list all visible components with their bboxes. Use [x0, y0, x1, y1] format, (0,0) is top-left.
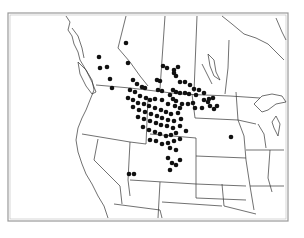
- occurrence-dot: [136, 101, 141, 106]
- occurrence-dot: [124, 41, 129, 46]
- occurrence-dot: [178, 137, 183, 142]
- occurrence-dot: [170, 161, 175, 166]
- occurrence-dot: [165, 66, 170, 71]
- occurrence-dot: [178, 91, 183, 96]
- occurrence-dot: [166, 156, 171, 161]
- boundaries: [66, 16, 286, 218]
- occurrence-dot: [149, 112, 154, 117]
- occurrence-dot: [98, 66, 103, 71]
- occurrence-dot: [153, 97, 158, 102]
- occurrence-dot: [142, 102, 147, 107]
- occurrence-dot: [191, 101, 196, 106]
- occurrence-dot: [171, 126, 176, 131]
- occurrence-dot: [143, 110, 148, 115]
- occurrence-dot: [135, 82, 140, 87]
- occurrence-dot: [127, 172, 132, 177]
- occurrence-dot: [158, 132, 163, 137]
- occurrence-dot: [138, 94, 143, 99]
- occurrence-dot: [147, 128, 152, 133]
- occurrence-dot: [166, 118, 171, 123]
- occurrence-dot: [202, 91, 207, 96]
- occurrence-dot: [160, 142, 165, 147]
- occurrence-dot: [168, 146, 173, 151]
- occurrence-dot: [166, 141, 171, 146]
- occurrence-dot: [141, 125, 146, 130]
- occurrence-dot: [159, 123, 164, 128]
- occurrence-dot: [197, 88, 202, 93]
- occurrence-dot: [206, 100, 211, 105]
- occurrence-dot: [137, 108, 142, 113]
- occurrence-dot: [128, 88, 133, 93]
- occurrence-dot: [147, 104, 152, 109]
- occurrence-dot: [161, 64, 166, 69]
- occurrence-dot: [131, 105, 136, 110]
- occurrence-dot: [105, 65, 110, 70]
- occurrence-dot: [168, 168, 173, 173]
- occurrence-dot: [174, 148, 179, 153]
- occurrence-dot: [183, 91, 188, 96]
- occurrence-dot: [166, 102, 171, 107]
- occurrence-dot: [133, 90, 138, 95]
- occurrence-dot: [178, 124, 183, 129]
- occurrence-dot: [202, 98, 207, 103]
- occurrence-dot: [215, 104, 220, 109]
- occurrence-dot: [160, 89, 165, 94]
- occurrence-dot: [155, 114, 160, 119]
- occurrence-dot: [169, 133, 174, 138]
- occurrence-dot: [192, 87, 197, 92]
- occurrence-dot: [188, 83, 193, 88]
- occurrence-dot: [184, 129, 189, 134]
- occurrence-dot: [172, 139, 177, 144]
- range-map: [0, 0, 304, 238]
- occurrence-dot: [148, 119, 153, 124]
- occurrence-dot: [131, 98, 136, 103]
- occurrence-dot: [108, 77, 113, 82]
- occurrence-dot: [142, 117, 147, 122]
- occurrence-dot: [143, 86, 148, 91]
- occurrence-dot: [165, 124, 170, 129]
- occurrence-dot: [174, 163, 179, 168]
- occurrence-dot: [178, 106, 183, 111]
- occurrence-dot: [200, 106, 205, 111]
- occurrence-dot: [183, 80, 188, 85]
- occurrence-dot: [187, 92, 192, 97]
- occurrence-dot: [174, 74, 179, 79]
- occurrence-dot: [164, 134, 169, 139]
- occurrence-dot: [174, 90, 179, 95]
- occurrence-dot: [153, 106, 158, 111]
- occurrence-dot: [144, 96, 149, 101]
- occurrence-dot: [131, 78, 136, 83]
- occurrence-dot: [136, 115, 141, 120]
- occurrence-dot: [208, 104, 213, 109]
- occurrence-dot: [186, 102, 191, 107]
- occurrence-dot: [132, 172, 137, 177]
- occurrence-dot: [172, 119, 177, 124]
- occurrence-dot: [178, 158, 183, 163]
- occurrence-dot: [158, 79, 163, 84]
- occurrence-dot: [156, 88, 161, 93]
- occurrence-dot: [168, 93, 173, 98]
- occurrence-dot: [148, 138, 153, 143]
- occurrence-dot: [174, 99, 179, 104]
- occurrence-dot: [126, 61, 131, 66]
- map-frame-outer: [8, 13, 288, 221]
- occurrence-dot: [180, 102, 185, 107]
- occurrence-dot: [126, 96, 131, 101]
- occurrence-dot: [97, 55, 102, 60]
- occurrence-dot: [229, 135, 234, 140]
- occurrence-dot: [154, 139, 159, 144]
- occurrence-points: [97, 41, 234, 177]
- map-frame-inner: [10, 15, 286, 219]
- occurrence-dot: [173, 104, 178, 109]
- occurrence-dot: [194, 93, 199, 98]
- occurrence-dot: [169, 112, 174, 117]
- occurrence-dot: [164, 110, 169, 115]
- occurrence-dot: [193, 106, 198, 111]
- occurrence-dot: [159, 108, 164, 113]
- occurrence-dot: [153, 130, 158, 135]
- occurrence-dot: [160, 116, 165, 121]
- occurrence-dot: [179, 117, 184, 122]
- occurrence-dot: [110, 86, 115, 91]
- occurrence-dot: [176, 65, 181, 70]
- occurrence-dot: [160, 98, 165, 103]
